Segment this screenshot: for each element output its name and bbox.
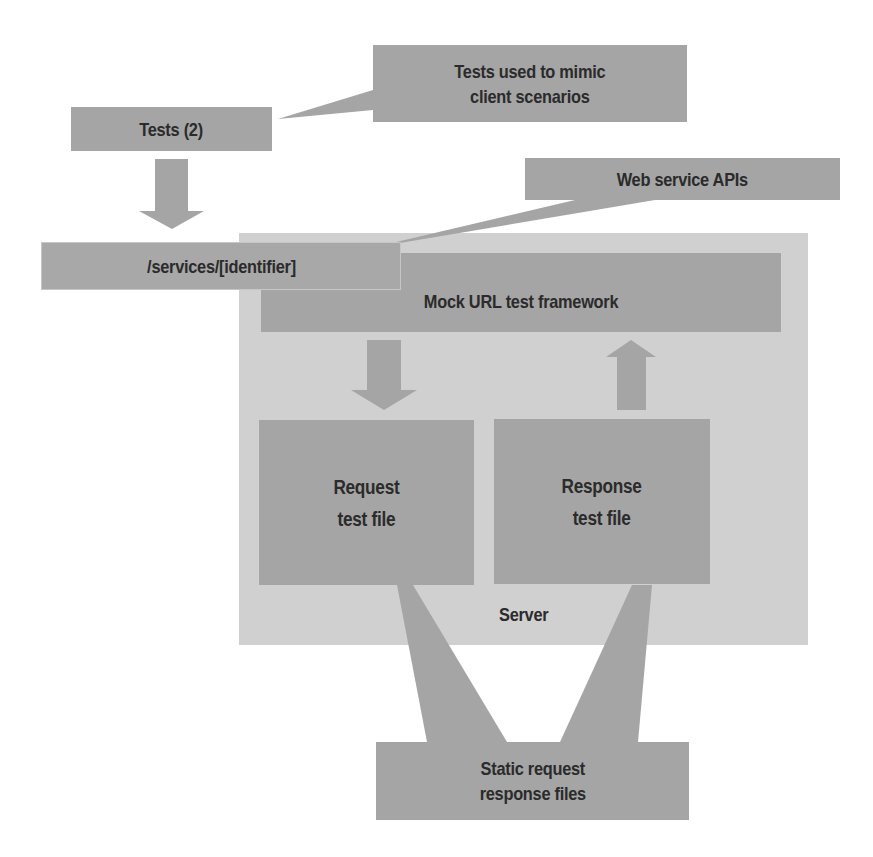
tests-node: Tests (2)	[71, 107, 272, 151]
callout-tests-note: Tests used to mimic client scenarios	[373, 45, 687, 122]
framework-node-label: Mock URL test framework	[424, 289, 618, 314]
callout-static-note-text: Static request response files	[479, 756, 585, 806]
callout-static-note: Static request response files	[376, 742, 689, 820]
request-file-node-label: Request test file	[333, 471, 399, 535]
response-file-node: Response test file	[494, 419, 710, 584]
arrow-down-icon	[351, 340, 417, 410]
tests-node-label: Tests (2)	[140, 117, 204, 142]
arrow-down-icon	[139, 159, 204, 229]
arrow-up-icon	[606, 340, 656, 410]
callout-tail-api-note	[392, 200, 655, 243]
server-label: Server	[239, 598, 808, 630]
services-url-node: /services/[identifier]	[42, 243, 400, 289]
callout-tests-note-text: Tests used to mimic client scenarios	[455, 59, 606, 109]
callout-tail-tests-note	[278, 90, 373, 119]
callout-api-note-text: Web service APIs	[617, 167, 748, 192]
response-file-node-label: Response test file	[562, 470, 642, 534]
request-file-node: Request test file	[259, 420, 474, 585]
callout-api-note: Web service APIs	[525, 158, 840, 200]
services-url-node-label: /services/[identifier]	[147, 254, 296, 279]
